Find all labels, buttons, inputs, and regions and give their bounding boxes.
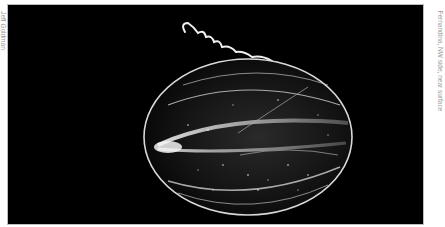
comb-jelly-illustration <box>8 5 423 224</box>
comb-jelly-photo <box>8 5 423 224</box>
tentacle <box>183 23 272 61</box>
photo-credit: Jeff Goldman <box>0 6 8 56</box>
photo-location-caption: Fernandina, NW side, near surface <box>436 11 445 107</box>
